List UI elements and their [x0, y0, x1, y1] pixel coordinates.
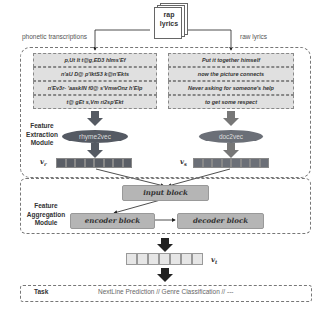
rap-lyrics-label: rap lyrics [155, 10, 183, 28]
v-t-label: vt [211, 255, 217, 265]
raw-lyrics-row: Never asking for someone's help [168, 81, 294, 95]
feature-aggregation-label: Feature Aggregation Module [22, 202, 70, 228]
label-line: Feature [22, 202, 70, 211]
v-subscript: t [215, 259, 217, 265]
phonetic-transcriptions-label: phonetic transcriptions [22, 33, 87, 40]
feature-extraction-label: Feature Extraction Module [22, 122, 62, 148]
v-subscript: s [184, 161, 187, 167]
v-s-vector [193, 158, 269, 168]
raw-lyrics-row: Put it together himself [168, 53, 294, 67]
label-line: Aggregation [22, 211, 70, 220]
v-r-label: vr [40, 157, 47, 167]
label-line: Feature [22, 122, 62, 131]
doc2vec-node: doc2vec [199, 130, 263, 143]
rap-lyrics-line2: lyrics [155, 19, 183, 28]
v-t-vector [126, 253, 203, 265]
decoder-block: decoder block [177, 213, 264, 229]
encoder-block: encoder block [70, 213, 155, 229]
phonetic-row: n'aU D@ p'IktS3 k@n'Ekts [33, 67, 157, 81]
input-block: input block [122, 185, 209, 201]
phonetic-row: t@ gEt s,Vm ri2sp'Ekt [33, 95, 157, 109]
label-line: Module [22, 219, 70, 228]
raw-lyrics-label: raw lyrics [240, 33, 267, 40]
raw-lyrics-row: now the picture connects [168, 67, 294, 81]
v-s-label: vs [180, 157, 187, 167]
v-subscript: r [44, 161, 47, 167]
task-description: NextLine Prediction // Genre Classificat… [98, 288, 233, 295]
rap-lyrics-line1: rap [155, 10, 183, 19]
v-r-vector [56, 158, 132, 168]
label-line: Module [22, 139, 62, 148]
label-line: Extraction [22, 131, 62, 140]
phonetic-row: p,Ut It t@g,ED3 hIms'Ef [33, 53, 157, 67]
rhyme2vec-node: rhyme2vec [62, 130, 128, 143]
phonetic-row: n'Ev3r- 'aaskIN f0@ s'VmwOnz h'Elp [33, 81, 157, 95]
raw-lyrics-row: to get some respect [168, 95, 294, 109]
task-label: Task [34, 288, 48, 295]
